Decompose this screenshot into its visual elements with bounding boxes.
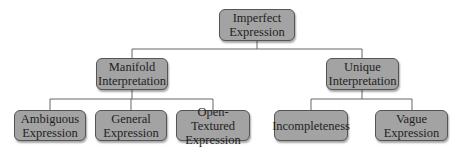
- node-unique-interpretation: Unique Interpretation: [326, 58, 399, 90]
- node-label: Incompleteness: [272, 119, 350, 133]
- node-label: Ambiguous Expression: [17, 112, 83, 140]
- node-imperfect-expression: Imperfect Expression: [219, 9, 295, 41]
- node-general-expression: General Expression: [95, 110, 167, 141]
- node-label: Manifold Interpretation: [98, 60, 166, 88]
- node-label: Vague Expression: [378, 112, 445, 140]
- node-label: General Expression: [98, 112, 164, 140]
- node-ambiguous-expression: Ambiguous Expression: [14, 110, 86, 141]
- node-vague-expression: Vague Expression: [375, 110, 448, 141]
- node-label: Imperfect Expression: [222, 11, 292, 39]
- node-manifold-interpretation: Manifold Interpretation: [96, 58, 168, 90]
- node-label: Open-Textured Expression: [179, 105, 247, 147]
- node-label: Unique Interpretation: [329, 60, 397, 88]
- node-open-textured-expression: Open-Textured Expression: [176, 110, 250, 141]
- node-incompleteness: Incompleteness: [274, 110, 348, 141]
